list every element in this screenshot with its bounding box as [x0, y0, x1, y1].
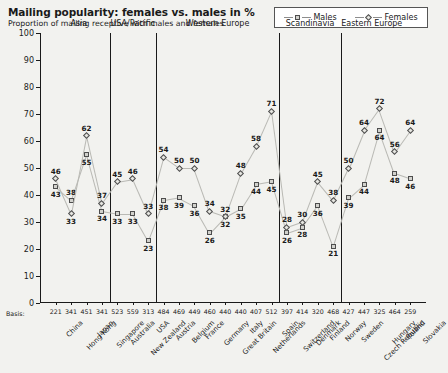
data-point-label: 32: [220, 220, 230, 229]
group-label-scandinavia: Scandinavia: [286, 19, 335, 28]
data-point-label: 23: [143, 244, 153, 253]
y-axis-tick: [36, 303, 40, 304]
data-point-label: 33: [143, 202, 153, 211]
group-label-asia: Asia: [70, 19, 87, 28]
x-axis: [40, 302, 426, 303]
data-point-label: 62: [82, 124, 92, 133]
basis-value: 320: [312, 308, 324, 315]
basis-value: 397: [281, 308, 293, 315]
square-marker-icon: [161, 198, 166, 203]
data-point-label: 54: [159, 145, 169, 154]
group-label-western-europe: Western Europe: [186, 19, 249, 28]
square-marker-icon: [408, 176, 413, 181]
square-marker-icon: [377, 128, 382, 133]
y-axis-tick: [36, 60, 40, 61]
data-point-label: 44: [359, 187, 369, 196]
square-marker-icon: [254, 182, 259, 187]
square-marker-icon: [130, 211, 135, 216]
data-point-label: 64: [405, 118, 415, 127]
diamond-marker-icon: [206, 208, 213, 215]
data-point-label: 34: [97, 214, 107, 223]
data-point-label: 33: [128, 217, 138, 226]
y-axis-tick: [36, 195, 40, 196]
y-axis-tick-label: 60: [24, 137, 34, 146]
square-marker-icon: [269, 179, 274, 184]
basis-value: 468: [327, 308, 339, 315]
y-axis-tick-label: 20: [24, 245, 34, 254]
basis-value: 259: [404, 308, 416, 315]
square-marker-icon: [284, 230, 289, 235]
square-marker-icon: [238, 206, 243, 211]
basis-value: 221: [50, 308, 62, 315]
basis-value: 440: [219, 308, 231, 315]
y-axis-tick-label: 100: [19, 29, 34, 38]
data-point-label: 48: [236, 161, 246, 170]
basis-axis-title: Basis:: [6, 310, 25, 317]
square-marker-icon: [177, 195, 182, 200]
data-point-label: 56: [390, 140, 400, 149]
data-point-label: 39: [174, 201, 184, 210]
x-axis-tick: [225, 302, 226, 305]
group-separator: [341, 33, 342, 303]
x-axis-category-label: China: [65, 319, 85, 339]
x-axis-tick: [379, 302, 380, 305]
plot-area: 0102030405060708090100AsiaUSA/PacificWes…: [40, 33, 426, 303]
data-point-label: 33: [112, 217, 122, 226]
x-axis-tick: [148, 302, 149, 305]
square-marker-icon: [346, 195, 351, 200]
data-point-label: 58: [251, 134, 261, 143]
y-axis-tick: [36, 114, 40, 115]
y-axis-tick-label: 0: [29, 299, 34, 308]
x-axis-tick: [364, 302, 365, 305]
diamond-marker-icon: [52, 175, 59, 182]
data-point-label: 28: [282, 215, 292, 224]
legend-line-females: [355, 17, 364, 18]
x-axis-tick: [133, 302, 134, 305]
data-point-label: 50: [189, 156, 199, 165]
data-point-label: 50: [344, 156, 354, 165]
square-marker-icon: [207, 230, 212, 235]
legend-line-males-right: [302, 17, 311, 18]
x-axis-tick: [318, 302, 319, 305]
diamond-marker-icon: [129, 175, 136, 182]
diamond-marker-icon: [191, 164, 198, 171]
page-title: Mailing popularity: females vs. males in…: [8, 6, 255, 18]
square-marker-icon: [315, 203, 320, 208]
data-point-label: 21: [328, 249, 338, 258]
data-point-label: 26: [282, 236, 292, 245]
data-point-label: 37: [97, 191, 107, 200]
data-point-label: 39: [344, 201, 354, 210]
data-point-label: 36: [313, 209, 323, 218]
group-separator: [156, 33, 157, 303]
basis-value: 460: [204, 308, 216, 315]
y-axis-tick: [36, 33, 40, 34]
data-point-label: 32: [220, 205, 230, 214]
data-point-label: 64: [374, 133, 384, 142]
x-axis-tick: [117, 302, 118, 305]
x-axis-tick: [349, 302, 350, 305]
basis-value: 484: [158, 308, 170, 315]
data-point-label: 45: [267, 185, 277, 194]
basis-value: 464: [389, 308, 401, 315]
square-marker-icon: [192, 203, 197, 208]
data-point-label: 26: [205, 236, 215, 245]
square-marker-icon: [146, 238, 151, 243]
basis-value: 427: [343, 308, 355, 315]
y-axis-tick-label: 50: [24, 164, 34, 173]
y-axis-tick: [36, 168, 40, 169]
basis-value: 325: [373, 308, 385, 315]
y-axis-tick: [36, 141, 40, 142]
data-point-label: 71: [267, 99, 277, 108]
diamond-marker-icon: [345, 164, 352, 171]
x-axis-tick: [71, 302, 72, 305]
data-point-label: 43: [51, 190, 61, 199]
y-axis-tick-label: 70: [24, 110, 34, 119]
data-point-label: 46: [405, 182, 415, 191]
y-axis-tick-label: 10: [24, 272, 34, 281]
square-marker-icon: [84, 152, 89, 157]
data-point-label: 72: [374, 97, 384, 106]
y-axis-tick-label: 80: [24, 83, 34, 92]
data-point-label: 36: [189, 209, 199, 218]
data-point-label: 46: [51, 167, 61, 176]
basis-value: 447: [358, 308, 370, 315]
